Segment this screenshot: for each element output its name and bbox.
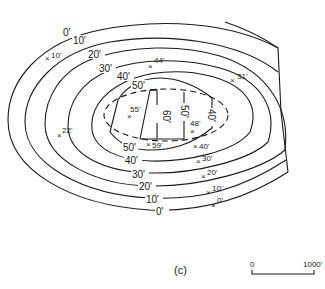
label-40-bottom: 40' (125, 155, 138, 166)
spot-marker: × (45, 54, 50, 63)
label-50: 50' (132, 80, 145, 91)
spot-marker: × (146, 140, 151, 149)
scale-bar: 0 1000' (250, 260, 323, 274)
label-40: 40' (117, 71, 130, 82)
spot-marker: × (193, 142, 198, 151)
scale-end-label: 1000' (303, 260, 323, 269)
spot-height-label: 44' (154, 56, 165, 65)
spot-marker: × (230, 76, 235, 85)
map-boundary-line (225, 22, 288, 172)
spot-height-label: 30' (202, 154, 213, 163)
spot-height-label: 31' (237, 72, 248, 81)
spot-marker: × (190, 127, 195, 136)
label-50-bottom: 50' (123, 142, 136, 153)
scale-bar-line (252, 270, 314, 274)
spot-height-label: 40' (199, 142, 210, 151)
label-20-bottom: 20' (139, 181, 152, 192)
scale-start-label: 0 (250, 260, 255, 269)
spot-height-label: 22' (62, 126, 73, 135)
spot-height-label: 10' (51, 51, 62, 60)
label-10: 10' (73, 35, 86, 46)
spot-height-label: 59' (152, 141, 163, 150)
spot-height-label: 0' (217, 196, 223, 205)
figure-caption: (c) (174, 264, 187, 276)
contour-map: 0' 10' 20' 30' 40' 50' 60' 50' 40' 50' 4… (0, 0, 325, 289)
label-30-bottom: 30' (132, 169, 145, 180)
label-0: 0' (63, 27, 71, 38)
label-40-right: 40' (206, 109, 217, 122)
label-10-bottom: 10' (146, 194, 159, 205)
spot-marker: × (201, 172, 206, 181)
label-50-right: 50' (179, 105, 190, 118)
label-0-bottom: 0' (156, 206, 164, 217)
spot-height-label: 48' (190, 119, 201, 128)
spot-marker: × (148, 62, 153, 71)
spot-height-label: 20' (207, 168, 218, 177)
spot-marker: × (211, 201, 216, 210)
label-60: 60' (161, 110, 172, 123)
spot-height-label: 10' (212, 184, 223, 193)
label-30: 30' (99, 63, 112, 74)
spot-height-label: 55' (130, 105, 141, 114)
spot-marker: × (196, 157, 201, 166)
label-20: 20' (88, 49, 101, 60)
spot-marker: × (206, 188, 211, 197)
